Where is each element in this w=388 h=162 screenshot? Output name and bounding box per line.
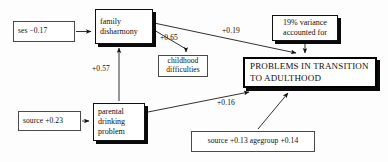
node-childhood-difficulties-line-1: difficulties	[163, 66, 203, 75]
node-parental-drinking-line-0: parental	[98, 107, 140, 117]
node-problems-line-1: TO ADULTHOOD	[250, 73, 370, 84]
node-source-agegroup-line-0: source +0.13 agegroup +0.14	[196, 137, 310, 146]
node-ses[interactable]: ses −0.17	[13, 21, 75, 42]
edge-label-016: +0.16	[217, 98, 235, 107]
node-variance-accounted[interactable]: 19% variance accounted for	[272, 15, 338, 41]
node-ses-line-0: ses −0.17	[18, 27, 70, 36]
node-variance-accounted-line-0: 19% variance	[277, 18, 333, 28]
edge-label-019: +0.19	[222, 26, 240, 35]
node-problems-in-transition-to-adulthood[interactable]: PROBLEMS IN TRANSITION TO ADULTHOOD	[243, 57, 377, 88]
edge-label-057: +0.57	[92, 64, 110, 73]
node-childhood-difficulties[interactable]: childhood difficulties	[158, 55, 208, 77]
path-diagram: ses −0.17 family disharmony childhood di…	[0, 0, 388, 162]
edge-sourceagegroup-to-problems	[258, 93, 288, 129]
node-source-023-line-0: source +0.23	[23, 117, 76, 126]
node-parental-drinking-line-2: problem	[98, 127, 140, 137]
node-source-agegroup[interactable]: source +0.13 agegroup +0.14	[191, 131, 315, 152]
node-family-disharmony[interactable]: family disharmony	[95, 9, 153, 44]
node-parental-drinking-problem[interactable]: parental drinking problem	[93, 103, 145, 141]
node-parental-drinking-line-1: drinking	[98, 117, 140, 127]
node-family-disharmony-line-1: disharmony	[100, 27, 138, 37]
node-problems-line-0: PROBLEMS IN TRANSITION	[250, 61, 370, 72]
node-variance-accounted-line-1: accounted for	[277, 28, 333, 38]
edge-label-065: +0.65	[160, 33, 178, 42]
node-family-disharmony-line-0: family	[100, 17, 121, 27]
node-source-023[interactable]: source +0.23	[18, 111, 81, 131]
